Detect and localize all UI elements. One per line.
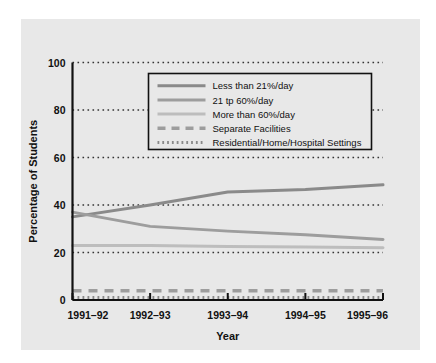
y-axis-tick-labels: 020406080100	[48, 57, 66, 307]
legend-label: Residential/Home/Hospital Settings	[213, 137, 362, 148]
y-tick-label: 20	[54, 247, 66, 259]
y-tick-label: 40	[54, 199, 66, 211]
x-tick-label: 1994–95	[285, 309, 326, 321]
y-axis-title: Percentage of Students	[27, 120, 39, 243]
x-tick-label: 1991–92	[68, 309, 109, 321]
x-axis-tick-labels: 1991–921992–931993–941994–951995–96	[68, 309, 389, 321]
series-lines-group	[73, 185, 384, 298]
y-tick-label: 100	[48, 57, 66, 69]
x-axis-title: Year	[216, 330, 240, 342]
y-tick-label: 0	[60, 294, 66, 306]
series-line	[73, 185, 384, 217]
x-tick-label: 1992–93	[130, 309, 171, 321]
legend-label: 21 tp 60%/day	[213, 95, 274, 106]
chart-plot-wrapper: 020406080100 1991–921992–931993–941994–9…	[0, 0, 436, 363]
line-chart-svg: 020406080100 1991–921992–931993–941994–9…	[0, 0, 436, 363]
series-line	[73, 245, 384, 247]
legend-label: Less than 21%/day	[213, 80, 294, 91]
y-tick-label: 80	[54, 104, 66, 116]
y-tick-label: 60	[54, 152, 66, 164]
x-tick-label: 1995–96	[347, 309, 388, 321]
series-line	[73, 212, 384, 239]
chart-figure: 020406080100 1991–921992–931993–941994–9…	[0, 0, 436, 363]
legend-label: Separate Facilities	[213, 123, 291, 134]
chart-legend: Less than 21%/day21 tp 60%/dayMore than …	[149, 74, 372, 150]
legend-label: More than 60%/day	[213, 109, 296, 120]
x-tick-label: 1993–94	[207, 309, 248, 321]
